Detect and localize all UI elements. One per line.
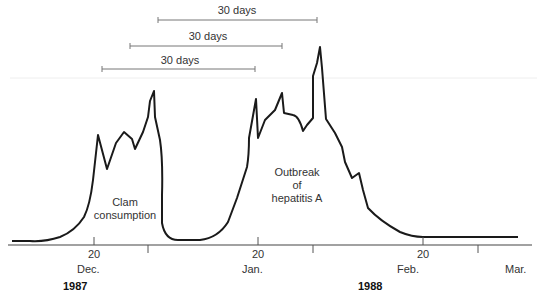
- month-label-mar: Mar.: [505, 263, 526, 275]
- clam-annotation-line1: Clam: [112, 196, 138, 208]
- tick-label-dec-20: 20: [88, 248, 100, 260]
- outbreak-annotation-line1: Outbreak: [274, 166, 320, 178]
- outbreak-annotation-line3: hepatitis A: [272, 192, 323, 204]
- interval-bar-2-label: 30 days: [189, 30, 228, 42]
- chart-canvas: 30 days 30 days 30 days Clam consumption…: [0, 0, 537, 295]
- month-label-dec: Dec.: [77, 263, 100, 275]
- interval-bar-1-label: 30 days: [218, 4, 257, 16]
- outbreak-annotation-line2: of: [292, 179, 302, 191]
- tick-label-jan-20: 20: [252, 248, 264, 260]
- tick-label-feb-20: 20: [417, 248, 429, 260]
- interval-bar-3: [102, 66, 255, 72]
- month-label-feb: Feb.: [397, 263, 419, 275]
- clam-annotation-line2: consumption: [94, 209, 156, 221]
- month-label-jan: Jan.: [242, 263, 263, 275]
- interval-bar-2: [130, 43, 282, 49]
- interval-bar-3-label: 30 days: [161, 54, 200, 66]
- clam-consumption-curve: [12, 47, 518, 241]
- year-label-1988: 1988: [358, 280, 382, 292]
- year-label-1987: 1987: [63, 280, 87, 292]
- interval-bar-1: [158, 17, 317, 23]
